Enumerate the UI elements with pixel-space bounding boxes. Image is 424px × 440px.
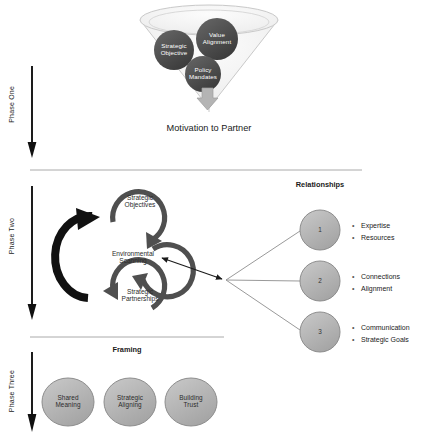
- bullet-text: Connections: [361, 273, 400, 280]
- relationship-1-item-0: •Expertise: [352, 222, 390, 229]
- relationship-1-number: 1: [310, 226, 330, 233]
- relationship-2-item-1: •Alignment: [352, 285, 392, 292]
- cycle-label-strategic-partnerships: Strategic Partnerships: [106, 288, 174, 303]
- phase-two-label: Phase Two: [8, 218, 15, 254]
- phase-two-arrow-icon: [28, 186, 37, 320]
- funnel-label-strategic-objective: Strategic Objective: [150, 43, 198, 57]
- relationship-2-number: 2: [310, 277, 330, 284]
- diagram-vector-layer: [0, 0, 424, 440]
- framing-label-line1: Building: [167, 394, 215, 401]
- phase-one-arrow-icon: [28, 66, 37, 158]
- relationship-2-item-0: •Connections: [352, 273, 400, 280]
- bullet-dot-icon: •: [352, 285, 361, 292]
- phase-one-label: Phase One: [8, 86, 15, 123]
- cycle-label-line2: Scanning: [97, 257, 169, 264]
- bullet-text: Expertise: [361, 222, 390, 229]
- cycle-label-strategic-objectives: Strategic Objectives: [110, 194, 170, 209]
- framing-label-line2: Aligning: [106, 401, 154, 408]
- diagram-canvas: Phase One Phase Two Phase Three Strategi…: [0, 0, 424, 440]
- cycle-label-line2: Partnerships: [106, 295, 174, 302]
- phase-three-label: Phase Three: [8, 370, 15, 412]
- framing-label-line2: Meaning: [44, 401, 92, 408]
- funnel-label-line2: Mandates: [179, 74, 227, 81]
- bullet-dot-icon: •: [352, 324, 361, 331]
- bullet-text: Strategic Goals: [361, 336, 409, 343]
- cycle-label-line1: Strategic: [110, 194, 170, 201]
- cycle-label-line1: Environmental: [97, 250, 169, 257]
- bullet-dot-icon: •: [352, 336, 361, 343]
- relationships-heading: Relationships: [265, 180, 375, 189]
- framing-label-building-trust: Building Trust: [167, 394, 215, 408]
- framing-label-shared-meaning: Shared Meaning: [44, 394, 92, 408]
- framing-label-line1: Strategic: [106, 394, 154, 401]
- cycle-label-line2: Objectives: [110, 201, 170, 208]
- framing-label-strategic-aligning: Strategic Aligning: [106, 394, 154, 408]
- bullet-dot-icon: •: [352, 273, 361, 280]
- relationship-3-item-0: •Communication: [352, 324, 410, 331]
- bullet-dot-icon: •: [352, 234, 361, 241]
- feedback-loop-arrow-icon: [55, 208, 100, 298]
- framing-heading: Framing: [82, 345, 172, 354]
- framing-label-line2: Trust: [167, 401, 215, 408]
- funnel-label-line2: Objective: [150, 50, 198, 57]
- cycle-label-line1: Strategic: [106, 288, 174, 295]
- funnel-label-line2: Alignment: [193, 39, 241, 46]
- relationship-3-item-1: •Strategic Goals: [352, 336, 409, 343]
- bullet-text: Communication: [361, 324, 410, 331]
- funnel-label-value-alignment: Value Alignment: [193, 32, 241, 46]
- phase-three-arrow-icon: [28, 352, 37, 432]
- funnel-label-policy-mandates: Policy Mandates: [179, 67, 227, 81]
- relationship-1-item-1: •Resources: [352, 234, 394, 241]
- relationship-connectors: [226, 231, 300, 330]
- bullet-text: Alignment: [361, 285, 392, 292]
- cycle-label-environmental-scanning: Environmental Scanning: [97, 250, 169, 265]
- bullet-dot-icon: •: [352, 222, 361, 229]
- bullet-text: Resources: [361, 234, 394, 241]
- motivation-caption: Motivation to Partner: [124, 123, 294, 133]
- relationship-3-number: 3: [310, 328, 330, 335]
- framing-label-line1: Shared: [44, 394, 92, 401]
